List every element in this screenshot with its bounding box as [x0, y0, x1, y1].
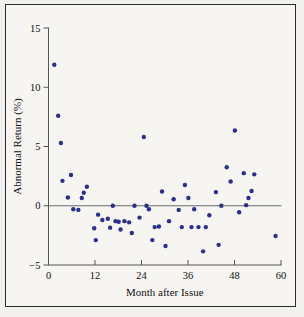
data-point	[108, 225, 112, 229]
axis-layer	[44, 28, 282, 266]
x-tick-label: 48	[229, 270, 240, 281]
data-point	[92, 226, 96, 230]
x-tick-label: 0	[46, 270, 51, 281]
data-point	[249, 189, 253, 193]
data-point	[216, 243, 220, 247]
data-point	[160, 189, 164, 193]
y-tick-label: −5	[29, 260, 40, 271]
data-point	[207, 213, 211, 217]
data-point	[94, 238, 98, 242]
data-point	[127, 220, 131, 224]
data-point	[186, 196, 190, 200]
data-point	[189, 225, 193, 229]
data-point	[225, 165, 229, 169]
data-point	[137, 215, 141, 219]
data-point	[204, 225, 208, 229]
data-point	[192, 207, 196, 211]
data-point	[228, 179, 232, 183]
data-point	[71, 207, 75, 211]
data-point	[219, 204, 223, 208]
data-point	[142, 135, 146, 139]
data-point	[214, 190, 218, 194]
x-tick-label: 24	[136, 270, 147, 281]
x-tick-label: 60	[276, 270, 287, 281]
data-point	[106, 217, 110, 221]
scatter-plot-svg: −505101501224364860Month after IssueAbno…	[0, 0, 304, 317]
data-point	[233, 128, 237, 132]
plot-area: −505101501224364860Month after IssueAbno…	[0, 0, 304, 317]
data-point	[167, 219, 171, 223]
data-point	[183, 183, 187, 187]
data-point	[157, 224, 161, 228]
data-point	[122, 219, 126, 223]
x-tick-label: 12	[90, 270, 101, 281]
data-point	[171, 197, 175, 201]
x-tick-label: 36	[183, 270, 194, 281]
data-point	[252, 172, 256, 176]
data-point	[56, 113, 60, 117]
data-point	[80, 196, 84, 200]
data-point	[111, 204, 115, 208]
data-point	[76, 208, 80, 212]
data-point	[180, 225, 184, 229]
data-points-layer	[52, 63, 278, 254]
data-point	[116, 220, 120, 224]
data-point	[152, 225, 156, 229]
data-point	[82, 191, 86, 195]
data-point	[246, 196, 250, 200]
data-point	[100, 218, 104, 222]
y-axis-title: Abnormal Return (%)	[11, 98, 24, 195]
y-tick-label: 10	[30, 82, 41, 93]
data-point	[118, 227, 122, 231]
data-point	[69, 173, 73, 177]
y-tick-label: 0	[35, 200, 40, 211]
data-point	[59, 141, 63, 145]
data-point	[242, 171, 246, 175]
data-point	[196, 225, 200, 229]
data-point	[96, 212, 100, 216]
data-point	[147, 207, 151, 211]
figure-container: −505101501224364860Month after IssueAbno…	[0, 0, 304, 317]
data-point	[130, 231, 134, 235]
data-point	[132, 204, 136, 208]
data-point	[150, 238, 154, 242]
data-point	[66, 195, 70, 199]
data-point	[85, 185, 89, 189]
data-point	[52, 63, 56, 67]
data-point	[237, 210, 241, 214]
y-tick-label: 5	[35, 141, 40, 152]
data-point	[201, 249, 205, 253]
data-point	[177, 208, 181, 212]
y-tick-label: 15	[30, 23, 41, 34]
data-point	[273, 234, 277, 238]
data-point	[163, 244, 167, 248]
data-point	[60, 179, 64, 183]
data-point	[244, 203, 248, 207]
x-axis-title: Month after Issue	[126, 286, 204, 298]
